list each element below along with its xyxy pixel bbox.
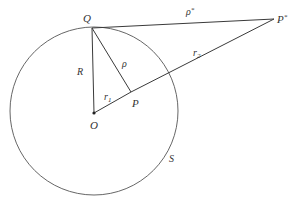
point-o-dot: [92, 111, 95, 114]
label-r1-sub: 1: [108, 96, 112, 104]
label-rho-star: ρ*: [185, 6, 195, 17]
label-pstar: P*: [276, 13, 288, 25]
geometry-diagram: Q O P P* R ρ r1 r2 ρ* S: [0, 0, 295, 202]
label-s: S: [169, 153, 174, 164]
segment-q-o: [92, 28, 94, 113]
segment-o-p: [94, 92, 131, 113]
label-r2: r2: [193, 47, 201, 60]
label-pstar-sup: *: [284, 13, 288, 21]
label-rho-star-sup: *: [191, 6, 195, 14]
label-rho: ρ: [121, 58, 127, 69]
label-q: Q: [83, 12, 91, 24]
label-p: P: [131, 97, 139, 109]
label-r2-sub: 2: [197, 52, 201, 60]
label-r: R: [76, 66, 83, 77]
segment-q-pstar: [92, 19, 274, 28]
label-r1: r1: [104, 91, 111, 104]
segment-p-pstar: [131, 19, 274, 92]
label-o: O: [90, 119, 98, 131]
